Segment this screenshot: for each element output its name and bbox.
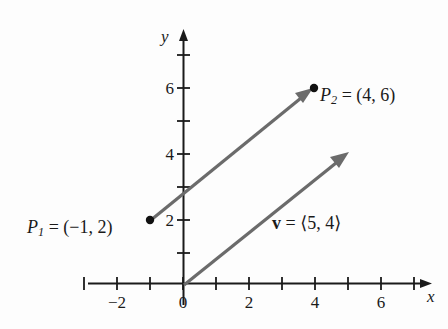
point-label-p2: P2 = (4, 6) [320, 86, 395, 107]
vector-label-v-rest: = ⟨5, 4⟩ [281, 213, 341, 233]
x-tick-label-2: 2 [245, 294, 254, 311]
point-label-p1: P1 = (−1, 2) [27, 218, 112, 239]
x-tick-label-6: 6 [377, 294, 386, 311]
y-axis-label: y [161, 28, 169, 45]
point-label-p2-letter: P [320, 85, 331, 105]
point-p2 [310, 84, 318, 92]
x-axis-label: x [427, 288, 435, 305]
point-label-p1-letter: P [27, 217, 38, 237]
x-tick-label-0: 0 [179, 294, 188, 311]
y-tick-label-2: 2 [166, 212, 175, 229]
point-label-p2-rest: = (4, 6) [337, 85, 395, 105]
y-tick-label-6: 6 [166, 80, 175, 97]
point-label-p1-rest: = (−1, 2) [44, 217, 112, 237]
plot-canvas [0, 0, 448, 329]
point-p1 [146, 216, 154, 224]
x-tick-label-4: 4 [311, 294, 320, 311]
vector-label-v-letter: v [272, 213, 281, 233]
vector-label-v: v = ⟨5, 4⟩ [272, 214, 341, 232]
vector-diagram-figure: −2 0 2 4 6 2 4 6 x y P1 = (−1, 2) P2 = (… [0, 0, 448, 329]
y-tick-label-4: 4 [166, 146, 175, 163]
y-axis [179, 29, 188, 305]
x-tick-label--2: −2 [108, 294, 126, 311]
